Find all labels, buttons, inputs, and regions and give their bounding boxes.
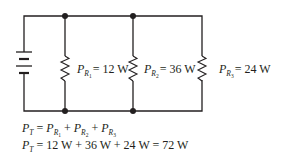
top-wire bbox=[24, 16, 202, 56]
equation-total-power-sum: PT = PR1 + PR2 + PR3 bbox=[21, 121, 116, 138]
bottom-wire bbox=[24, 73, 202, 111]
r2-power-label: PR2= 36 W bbox=[143, 62, 196, 79]
battery-icon bbox=[16, 52, 32, 73]
node-bottom-2 bbox=[130, 108, 136, 114]
node-top-2 bbox=[130, 13, 136, 19]
equation-total-power-value: PT = 12 W + 36 W + 24 W = 72 W bbox=[21, 138, 189, 154]
resistor-r3-icon bbox=[198, 56, 206, 81]
node-top-1 bbox=[62, 13, 68, 19]
r3-power-label: PR3= 24 W bbox=[218, 62, 271, 79]
circuit-diagram: PR1= 12 W PR2= 36 W PR3= 24 W PT = PR1 +… bbox=[0, 0, 283, 157]
resistor-r2-icon bbox=[129, 56, 137, 81]
r1-power-label: PR1= 12 W bbox=[76, 62, 129, 79]
node-bottom-1 bbox=[62, 108, 68, 114]
resistor-r1-icon bbox=[61, 56, 69, 81]
